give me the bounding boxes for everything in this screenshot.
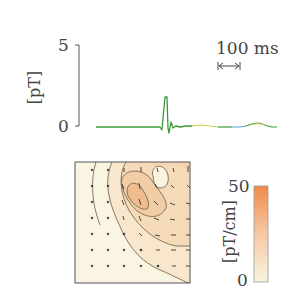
trace-line xyxy=(96,97,277,133)
figure-graphics xyxy=(0,0,301,305)
colorbar xyxy=(254,186,268,282)
gradient-map xyxy=(75,162,190,283)
trace-y-axis xyxy=(75,45,79,126)
scale-bar-arrow xyxy=(218,62,240,70)
